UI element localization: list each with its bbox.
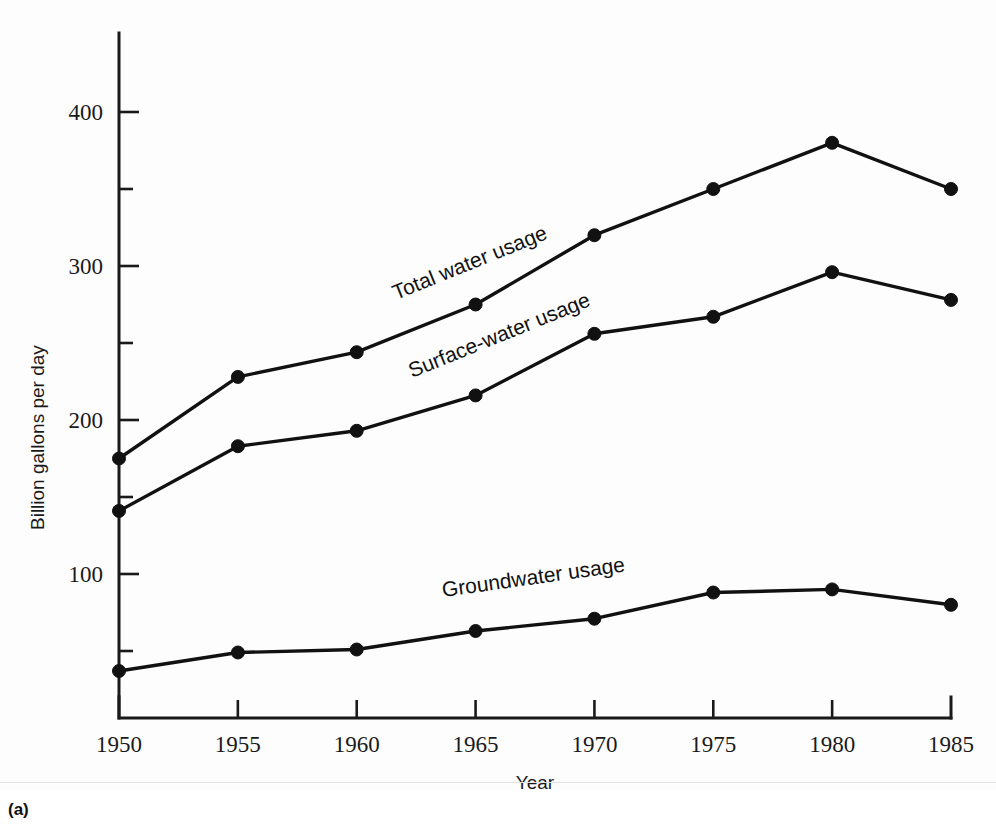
data-point bbox=[945, 598, 958, 611]
y-axis-title: Billion gallons per day bbox=[27, 345, 48, 530]
x-tick-label: 1970 bbox=[571, 732, 617, 757]
data-point bbox=[231, 370, 244, 383]
page-divider bbox=[0, 782, 996, 783]
data-point bbox=[350, 424, 363, 437]
series-groundwater-usage bbox=[113, 583, 958, 678]
series-surface-water-usage bbox=[113, 266, 958, 518]
series-line bbox=[119, 589, 951, 671]
data-point bbox=[469, 625, 482, 638]
x-tick-label: 1960 bbox=[334, 732, 380, 757]
series-annotation: Total water usage bbox=[389, 221, 550, 304]
data-point bbox=[469, 298, 482, 311]
y-axis-tick-labels: 100200300400 bbox=[69, 100, 104, 587]
data-point bbox=[588, 327, 601, 340]
chart-figure: 100200300400 195019551960196519701975198… bbox=[0, 0, 996, 790]
data-point bbox=[826, 136, 839, 149]
data-point bbox=[945, 293, 958, 306]
x-tick-label: 1985 bbox=[928, 732, 974, 757]
x-axis-tick-labels: 19501955196019651970197519801985 bbox=[96, 732, 974, 757]
figure-page: 100200300400 195019551960196519701975198… bbox=[0, 0, 996, 838]
data-series-layer bbox=[113, 136, 958, 677]
series-annotation: Surface-water usage bbox=[405, 288, 593, 382]
data-point bbox=[945, 183, 958, 196]
data-point bbox=[707, 183, 720, 196]
data-point bbox=[113, 665, 126, 678]
data-point bbox=[113, 504, 126, 517]
y-tick-label: 100 bbox=[69, 562, 104, 587]
data-point bbox=[588, 229, 601, 242]
x-tick-label: 1955 bbox=[215, 732, 261, 757]
y-tick-label: 200 bbox=[69, 408, 104, 433]
line-chart: 100200300400 195019551960196519701975198… bbox=[0, 0, 996, 790]
x-axis-title: Year bbox=[516, 772, 555, 790]
x-tick-label: 1965 bbox=[453, 732, 499, 757]
series-total-water-usage bbox=[113, 136, 958, 465]
data-point bbox=[707, 310, 720, 323]
data-point bbox=[469, 389, 482, 402]
data-point bbox=[826, 266, 839, 279]
x-tick-label: 1975 bbox=[690, 732, 736, 757]
y-tick-label: 300 bbox=[69, 254, 104, 279]
series-annotation: Groundwater usage bbox=[440, 553, 626, 601]
x-tick-label: 1950 bbox=[96, 732, 142, 757]
data-point bbox=[113, 452, 126, 465]
data-point bbox=[826, 583, 839, 596]
x-tick-label: 1980 bbox=[809, 732, 855, 757]
data-point bbox=[231, 646, 244, 659]
y-tick-label: 400 bbox=[69, 100, 104, 125]
series-line bbox=[119, 143, 951, 459]
y-axis-ticks bbox=[119, 112, 139, 651]
data-point bbox=[231, 440, 244, 453]
data-point bbox=[588, 612, 601, 625]
figure-caption: (a) bbox=[8, 800, 29, 820]
data-point bbox=[350, 643, 363, 656]
x-axis-ticks bbox=[238, 700, 832, 718]
data-point bbox=[350, 346, 363, 359]
data-point bbox=[707, 586, 720, 599]
